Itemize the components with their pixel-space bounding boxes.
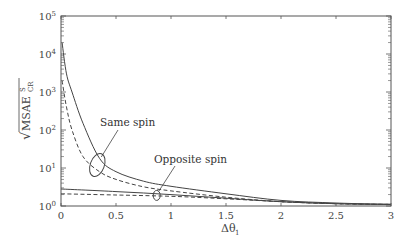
leader-line-opposite [159, 166, 175, 191]
svg-text:S: S [19, 87, 27, 92]
svg-text:CR: CR [27, 81, 35, 92]
series-line-2 [61, 189, 391, 204]
x-tick-label: 1 [168, 210, 174, 221]
x-tick-label: 2.5 [328, 210, 344, 221]
chart: 00.511.522.53100101102103104105 Same spi… [0, 0, 414, 243]
annotation-same-spin: Same spin [100, 116, 155, 128]
series-line-1 [62, 81, 391, 205]
y-tick-label: 102 [39, 124, 56, 136]
x-tick-label: 3 [388, 210, 394, 221]
y-tick-label: 101 [39, 162, 56, 174]
svg-text:1: 1 [235, 229, 239, 237]
y-tick-label: 103 [39, 86, 56, 98]
svg-text:Δθ: Δθ [221, 222, 236, 235]
leader-line-same [101, 130, 118, 157]
y-tick-label: 100 [39, 200, 56, 212]
y-axis-label: √ MSAE S CR [18, 78, 35, 140]
x-tick-label: 0.5 [108, 210, 124, 221]
x-tick-label: 1.5 [218, 210, 234, 221]
axes: 00.511.522.53100101102103104105 [39, 10, 394, 221]
y-tick-label: 105 [39, 10, 56, 22]
svg-text:MSAE: MSAE [20, 96, 33, 131]
annotation-opposite-spin: Opposite spin [154, 153, 227, 165]
x-axis-label: Δθ 1 [221, 222, 239, 237]
x-tick-label: 0 [58, 210, 64, 221]
x-tick-label: 2 [278, 210, 284, 221]
svg-text:√: √ [18, 131, 33, 140]
y-tick-label: 104 [39, 48, 57, 60]
